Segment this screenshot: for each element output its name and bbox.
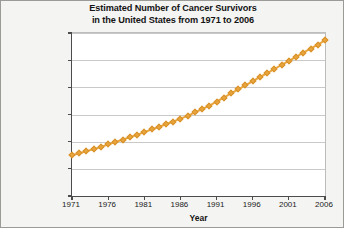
data-point: [220, 94, 227, 101]
data-point: [112, 138, 119, 145]
data-point: [227, 90, 234, 97]
y-tick-mark: [68, 114, 72, 115]
data-point: [119, 136, 126, 143]
x-tick-label: 2001: [279, 200, 297, 209]
data-point: [256, 74, 263, 81]
data-point: [191, 109, 198, 116]
data-point: [307, 45, 314, 52]
chart-title: Estimated Number of Cancer Survivors in …: [41, 3, 305, 26]
series-markers: [72, 33, 325, 196]
data-point: [242, 82, 249, 89]
chart-figure: Estimated Number of Cancer Survivors in …: [0, 0, 344, 228]
data-point: [213, 98, 220, 105]
x-tick-label: 2006: [315, 200, 333, 209]
x-tick-label: 1986: [171, 200, 189, 209]
y-tick-mark: [68, 60, 72, 61]
x-tick-label: 1996: [243, 200, 261, 209]
data-point: [177, 115, 184, 122]
data-point: [264, 70, 271, 77]
data-point: [97, 144, 104, 151]
data-point: [148, 126, 155, 133]
data-point: [141, 129, 148, 136]
y-tick-mark: [68, 141, 72, 142]
data-point: [300, 49, 307, 56]
data-point: [134, 131, 141, 138]
data-point: [235, 86, 242, 93]
x-tick-label: 1991: [207, 200, 225, 209]
x-tick-label: 1976: [98, 200, 116, 209]
y-tick-mark: [68, 32, 72, 33]
data-point: [285, 57, 292, 64]
data-point: [271, 65, 278, 72]
x-axis-title: Year: [71, 213, 326, 223]
data-point: [199, 106, 206, 113]
data-point: [321, 37, 328, 44]
data-point: [278, 61, 285, 68]
data-point: [206, 102, 213, 109]
plot-area: [71, 32, 326, 197]
chart-title-line-2: in the United States from 1971 to 2006: [41, 15, 305, 27]
chart-title-line-1: Estimated Number of Cancer Survivors: [41, 3, 305, 15]
data-point: [155, 123, 162, 130]
data-point: [184, 112, 191, 119]
y-tick-mark: [68, 168, 72, 169]
y-tick-mark: [68, 87, 72, 88]
data-point: [314, 41, 321, 48]
data-point: [83, 148, 90, 155]
data-point: [249, 78, 256, 85]
x-tick-label: 1971: [62, 200, 80, 209]
x-tick-label: 1981: [134, 200, 152, 209]
data-point: [293, 53, 300, 60]
